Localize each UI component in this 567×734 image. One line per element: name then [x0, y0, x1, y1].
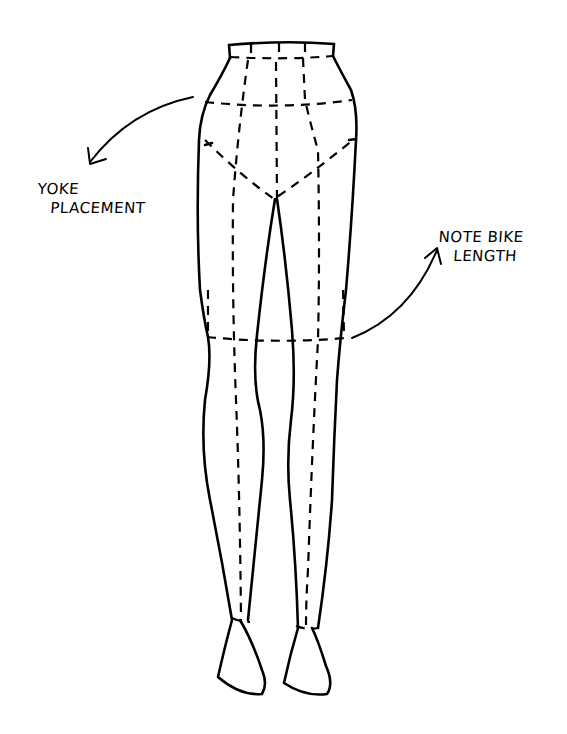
gusset-seam	[205, 140, 353, 199]
annotation-line: NOTE BIKE	[438, 228, 524, 247]
leggings-sketch	[0, 0, 567, 734]
annotation-line: PLACEMENT	[50, 199, 146, 218]
yoke-arrow	[88, 97, 193, 164]
yoke-placement-annotation: YOKE PLACEMENT	[36, 180, 148, 218]
yoke-seam	[205, 100, 352, 106]
legging-outline	[198, 56, 357, 695]
bike-arrow	[352, 248, 441, 338]
bike-length-line	[207, 337, 345, 341]
annotation-line: LENGTH	[453, 247, 523, 266]
ankle-seam-right	[296, 626, 318, 629]
bike-side-marks	[208, 290, 344, 336]
annotation-line: YOKE	[37, 180, 147, 199]
waistband	[229, 42, 334, 58]
panel-seams	[233, 58, 319, 628]
bike-length-annotation: NOTE BIKE LENGTH	[437, 228, 525, 266]
